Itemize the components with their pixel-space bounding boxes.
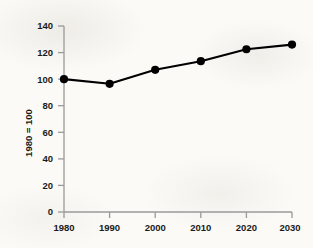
y-tick-label-40: 40 bbox=[42, 153, 53, 164]
x-tick-label-1980: 1980 bbox=[53, 222, 74, 233]
data-series-line bbox=[64, 45, 292, 84]
y-tick-label-140: 140 bbox=[37, 20, 53, 31]
y-axis-tick-labels: 140 120 100 80 60 40 20 0 bbox=[37, 20, 53, 217]
data-point-2020 bbox=[242, 45, 250, 53]
x-axis-tick-labels: 1980 1990 2000 2010 2020 2030 bbox=[53, 222, 300, 233]
x-tick-label-2010: 2010 bbox=[190, 222, 211, 233]
y-tick-label-60: 60 bbox=[42, 127, 53, 138]
x-tick-label-2030: 2030 bbox=[279, 222, 300, 233]
y-axis-ticks bbox=[58, 26, 64, 212]
y-tick-label-80: 80 bbox=[42, 100, 53, 111]
data-point-1990 bbox=[106, 80, 114, 88]
y-tick-label-20: 20 bbox=[42, 180, 53, 191]
data-point-2030 bbox=[288, 41, 296, 49]
y-axis-title: 1980 = 100 bbox=[23, 109, 34, 157]
chart-container: 140 120 100 80 60 40 20 0 1980 1990 2000… bbox=[0, 0, 313, 248]
data-point-2010 bbox=[197, 57, 205, 65]
y-tick-label-100: 100 bbox=[37, 74, 53, 85]
x-axis-ticks bbox=[64, 212, 292, 218]
y-tick-label-0: 0 bbox=[48, 206, 53, 217]
x-tick-label-2020: 2020 bbox=[236, 222, 257, 233]
x-tick-label-2000: 2000 bbox=[145, 222, 166, 233]
data-point-2000 bbox=[151, 66, 159, 74]
line-chart: 140 120 100 80 60 40 20 0 1980 1990 2000… bbox=[0, 0, 313, 248]
data-point-1980 bbox=[60, 75, 68, 83]
x-tick-label-1990: 1990 bbox=[99, 222, 120, 233]
y-tick-label-120: 120 bbox=[37, 47, 53, 58]
